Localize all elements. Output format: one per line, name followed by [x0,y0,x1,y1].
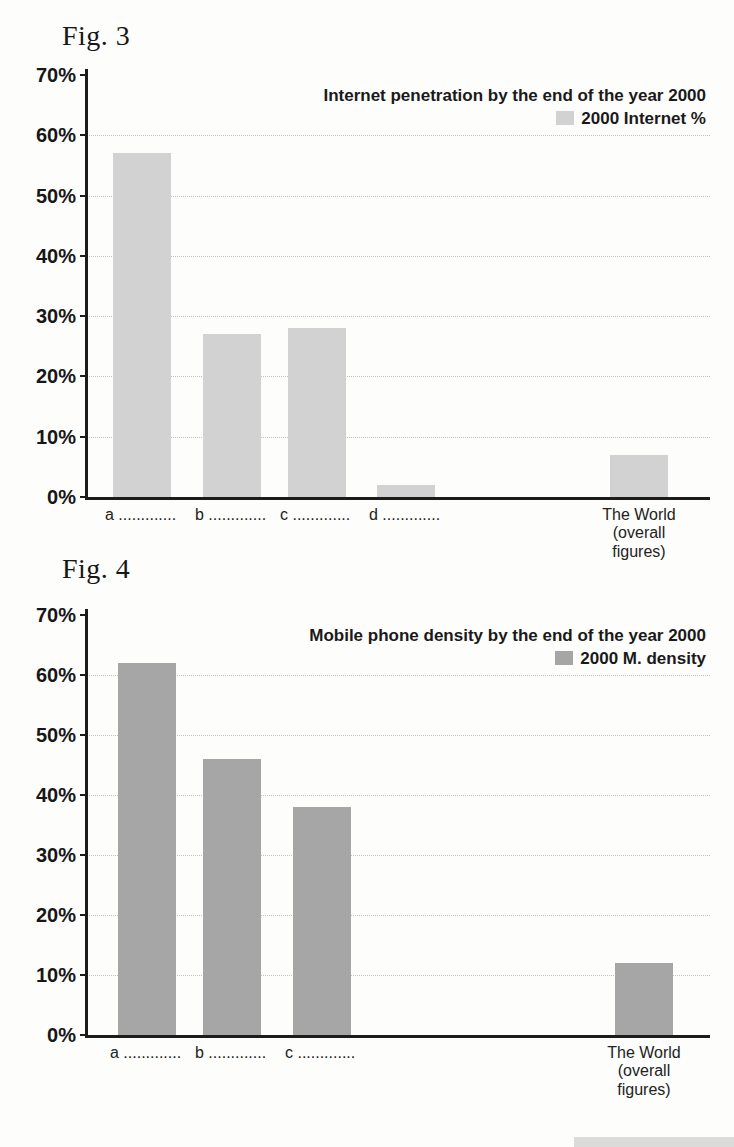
legend-swatch [555,651,573,665]
bar-b [203,759,261,1035]
figure-4-chart: 0%10%20%30%40%50%60%70%a .............b … [88,615,710,1035]
bar-b [203,334,261,497]
gridline [89,735,710,736]
y-axis-tick-label: 20% [36,904,76,927]
y-axis-tick [80,375,88,377]
bar-world [615,963,673,1035]
y-axis-tick-label: 70% [36,64,76,87]
y-axis-tick-label: 60% [36,124,76,147]
chart-title: Internet penetration by the end of the y… [323,86,706,106]
chart-title: Mobile phone density by the end of the y… [309,626,706,646]
y-axis-tick-label: 20% [36,365,76,388]
x-axis-category-label: The World (overall figures) [579,1044,709,1099]
chart-legend: 2000 Internet % [323,109,706,129]
y-axis-tick [80,794,88,796]
y-axis-tick [80,674,88,676]
scanned-book-page: Fig. 3 0%10%20%30%40%50%60%70%a ........… [0,0,734,1147]
y-axis-tick-label: 30% [36,305,76,328]
figure-3-heading: Fig. 3 [62,20,130,52]
y-axis-tick [80,1034,88,1036]
gridline [89,915,710,916]
bar-c [288,328,346,497]
gridline [89,316,710,317]
bar-a [118,663,176,1035]
legend-label: 2000 M. density [580,649,706,668]
y-axis-tick-label: 30% [36,844,76,867]
figure-4-caption: Mobile phone density by the end of the y… [309,626,706,669]
x-axis-category-label: b ............. [195,1044,266,1062]
y-axis-tick [80,255,88,257]
y-axis-tick [80,854,88,856]
x-axis-line [85,1035,710,1038]
y-axis-tick [80,914,88,916]
y-axis-tick-label: 40% [36,244,76,267]
gridline [89,256,710,257]
gridline [89,437,710,438]
y-axis-tick [80,734,88,736]
legend-label: 2000 Internet % [581,109,706,128]
gridline [89,675,710,676]
y-axis-tick [80,614,88,616]
y-axis-tick [80,436,88,438]
gridline [89,196,710,197]
y-axis-tick [80,134,88,136]
gridline [89,795,710,796]
y-axis-tick-label: 50% [36,184,76,207]
chart-legend: 2000 M. density [309,649,706,669]
x-axis-category-label: b ............. [195,506,266,524]
figure-4-heading: Fig. 4 [62,553,130,585]
x-axis-category-label: c ............. [280,506,350,524]
y-axis-tick-label: 40% [36,784,76,807]
figure-3-caption: Internet penetration by the end of the y… [323,86,706,129]
x-axis-category-label: d ............. [369,506,440,524]
x-axis-category-label: The World (overall figures) [574,506,704,561]
gridline [89,376,710,377]
legend-swatch [556,111,574,125]
page-scan-artifact [574,1137,734,1147]
x-axis-line [85,497,710,500]
y-axis-tick-label: 10% [36,964,76,987]
x-axis-category-label: a ............. [105,506,176,524]
y-axis-tick [80,195,88,197]
bar-world [610,455,668,497]
y-axis-tick [80,496,88,498]
y-axis-tick [80,315,88,317]
gridline [89,135,710,136]
x-axis-category-label: a ............. [110,1044,181,1062]
y-axis-tick-label: 0% [47,1024,76,1047]
y-axis-tick [80,74,88,76]
y-axis-tick-label: 0% [47,486,76,509]
gridline [89,855,710,856]
y-axis-tick-label: 50% [36,724,76,747]
bar-d [377,485,435,497]
figure-3-chart: 0%10%20%30%40%50%60%70%a .............b … [88,75,710,497]
bar-a [113,153,171,497]
bar-c [293,807,351,1035]
x-axis-category-label: c ............. [285,1044,355,1062]
y-axis-tick [80,974,88,976]
y-axis-tick-label: 10% [36,425,76,448]
y-axis-tick-label: 60% [36,664,76,687]
y-axis-tick-label: 70% [36,604,76,627]
